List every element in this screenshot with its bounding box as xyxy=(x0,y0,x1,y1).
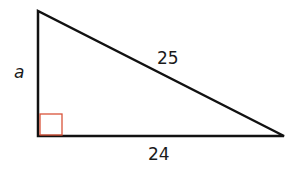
triangle-diagram: a 25 24 xyxy=(0,0,292,176)
label-hypotenuse: 25 xyxy=(157,48,179,68)
right-triangle xyxy=(38,11,284,136)
label-bottom-side: 24 xyxy=(148,144,170,164)
label-side-a: a xyxy=(14,62,24,82)
right-angle-marker xyxy=(40,114,62,135)
